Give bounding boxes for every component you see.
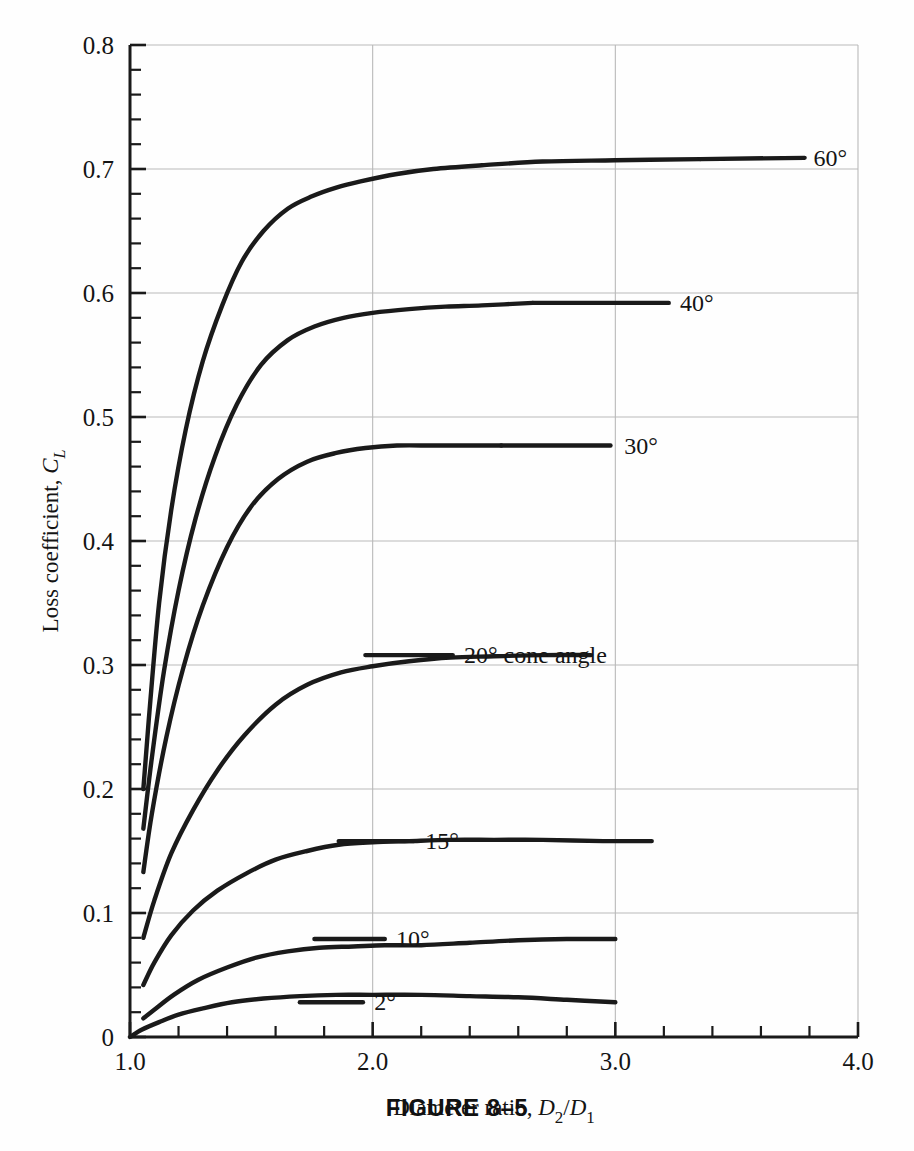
x-tick-label: 1.0 [114, 1048, 145, 1075]
gridlines [130, 45, 858, 1037]
curve-label: 2° [374, 989, 396, 1015]
curve-leader-line [700, 158, 804, 159]
curve-label: 20° cone angle [464, 642, 607, 668]
curve-label: 15° [425, 828, 459, 854]
tick-labels: 00.10.20.30.40.50.60.70.81.02.03.04.0 [83, 32, 874, 1075]
y-tick-label: 0 [102, 1024, 115, 1051]
curve-label: 30° [624, 433, 658, 459]
y-tick-label: 0.2 [83, 776, 114, 803]
curve-40deg [143, 303, 532, 829]
data-curves [130, 159, 700, 1037]
figure-container: 00.10.20.30.40.50.60.70.81.02.03.04.0 60… [0, 0, 914, 1151]
curve-label: 60° [813, 145, 847, 171]
x-tick-label: 2.0 [357, 1048, 388, 1075]
y-tick-label: 0.6 [83, 280, 114, 307]
y-tick-label: 0.5 [83, 404, 114, 431]
curve-15deg [143, 840, 651, 985]
axis-titles: Diameter ratio, D2/D1Loss coefficient, C… [38, 449, 595, 1127]
curve-label: 10° [396, 926, 430, 952]
y-tick-label: 0.1 [83, 900, 114, 927]
x-tick-label: 3.0 [600, 1048, 631, 1075]
x-tick-label: 4.0 [842, 1048, 873, 1075]
curve-labels: 60°40°30°20° cone angle15°10°2° [300, 145, 847, 1015]
figure-caption: FIGURE 8–5 [0, 1094, 914, 1122]
chart-plot-area: 00.10.20.30.40.50.60.70.81.02.03.04.0 60… [0, 0, 914, 1151]
y-tick-label: 0.3 [83, 652, 114, 679]
y-tick-label: 0.4 [83, 528, 115, 555]
curve-60deg [143, 159, 700, 789]
y-tick-label: 0.7 [83, 156, 114, 183]
curve-label: 40° [680, 290, 714, 316]
y-tick-label: 0.8 [83, 32, 114, 59]
y-axis-title: Loss coefficient, CL [38, 449, 68, 632]
loss-coefficient-chart: 00.10.20.30.40.50.60.70.81.02.03.04.0 60… [0, 0, 914, 1151]
